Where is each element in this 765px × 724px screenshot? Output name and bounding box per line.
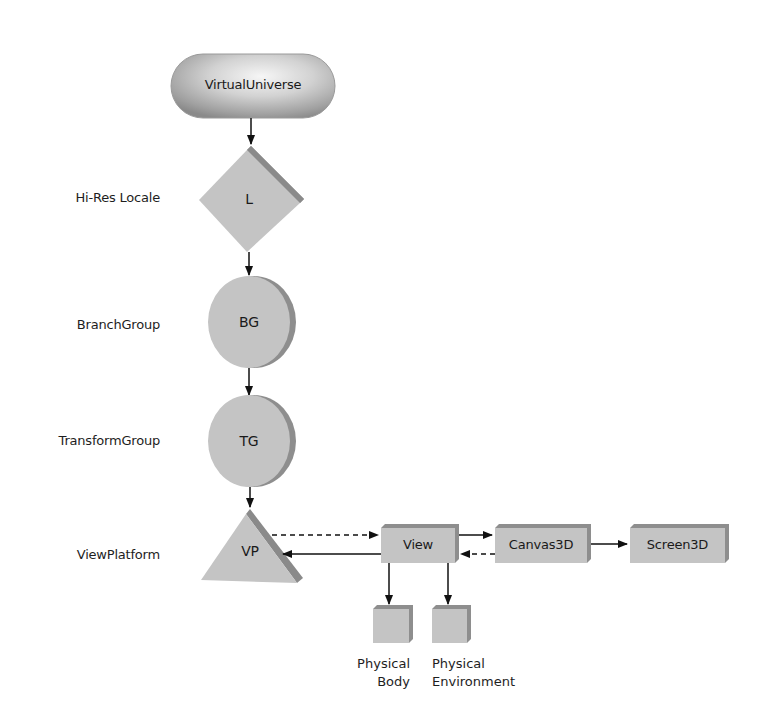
- physical-body-label-line1: Physical: [352, 655, 410, 673]
- view-platform-node-label: VP: [225, 543, 275, 559]
- scene-graph-diagram: VirtualUniverse L BG TG VP View Canvas3D…: [0, 0, 765, 724]
- row-label-hi-res-locale: Hi-Res Locale: [75, 190, 160, 205]
- physical-body-label: Physical Body: [352, 655, 410, 691]
- branch-group-node-label: BG: [221, 314, 277, 330]
- transform-group-node-label: TG: [221, 433, 277, 449]
- physical-environment-label-line1: Physical: [432, 655, 515, 673]
- row-label-branch-group: BranchGroup: [77, 317, 160, 332]
- physical-environment-label: Physical Environment: [432, 655, 515, 691]
- view-node-label: View: [381, 537, 455, 552]
- row-label-view-platform: ViewPlatform: [77, 547, 160, 562]
- physical-body-label-line2: Body: [352, 673, 410, 691]
- virtual-universe-label: VirtualUniverse: [171, 77, 335, 92]
- physical-environment-node: [432, 605, 471, 643]
- physical-environment-label-line2: Environment: [432, 673, 515, 691]
- row-label-transform-group: TransformGroup: [59, 433, 160, 448]
- canvas3d-node-label: Canvas3D: [495, 537, 587, 552]
- diagram-graphics: [0, 0, 765, 724]
- screen3d-node-label: Screen3D: [630, 537, 725, 552]
- locale-node-label: L: [221, 191, 277, 207]
- physical-body-node: [373, 605, 413, 643]
